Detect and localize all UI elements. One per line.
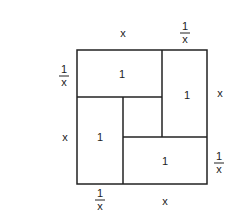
area-bottom-left: 1 [97,131,103,143]
label-left-frac-num: 1 [61,63,67,75]
area-bottom-right: 1 [162,155,168,167]
label-top-frac-den: x [182,33,188,45]
area-top-right: 1 [184,89,190,101]
area-top-left: 1 [119,68,125,80]
label-right-x: x [217,87,223,99]
label-left-frac-den: x [61,76,67,88]
outer-square [77,50,207,184]
label-right-frac-den: x [216,163,222,175]
label-bottom-frac-num: 1 [97,187,103,199]
label-top-frac-num: 1 [182,20,188,32]
label-right-frac-num: 1 [216,150,222,162]
label-bottom-x: x [162,195,168,207]
pinwheel-square-diagram: 1 1 1 1 x 1 x 1 x x x 1 x 1 x x [0,0,239,221]
label-top-x: x [120,27,126,39]
label-bottom-frac-den: x [97,200,103,212]
label-left-x: x [62,131,68,143]
